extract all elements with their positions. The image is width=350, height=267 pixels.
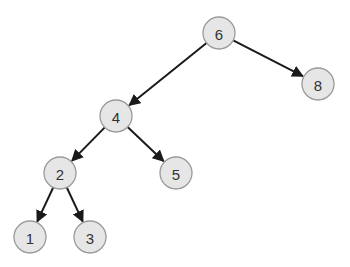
node-label: 1: [26, 230, 34, 247]
edge-4-to-2: [72, 127, 105, 160]
nodes-group: 6482513: [14, 17, 334, 253]
tree-node-8: 8: [302, 68, 334, 100]
tree-diagram: 6482513: [0, 0, 350, 267]
node-label: 6: [215, 26, 223, 43]
tree-svg: 6482513: [0, 0, 350, 267]
node-label: 3: [86, 230, 94, 247]
tree-node-1: 1: [14, 221, 46, 253]
edge-4-to-5: [128, 127, 164, 161]
node-label: 8: [314, 77, 322, 94]
edge-2-to-1: [37, 187, 53, 221]
node-label: 2: [56, 166, 64, 183]
node-label: 5: [172, 166, 180, 183]
edge-6-to-8: [233, 40, 303, 76]
tree-node-5: 5: [160, 157, 192, 189]
edges-group: [37, 40, 303, 221]
edge-2-to-3: [67, 187, 83, 221]
tree-node-2: 2: [44, 157, 76, 189]
edge-6-to-4: [129, 43, 206, 105]
tree-node-3: 3: [74, 221, 106, 253]
tree-node-4: 4: [100, 100, 132, 132]
tree-node-6: 6: [203, 17, 235, 49]
node-label: 4: [112, 109, 120, 126]
